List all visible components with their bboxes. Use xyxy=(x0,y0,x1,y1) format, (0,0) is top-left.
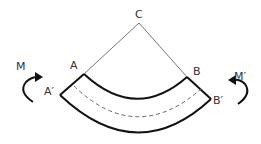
label-a: A xyxy=(70,59,78,72)
neutral-axis-dashed-arc xyxy=(74,86,201,117)
label-m-prime: M′ xyxy=(234,70,246,83)
label-b-prime: B′ xyxy=(213,94,224,107)
inner-arc xyxy=(84,74,187,99)
radial-line-right xyxy=(139,23,187,77)
label-a-prime: A′ xyxy=(44,85,55,98)
label-m: M xyxy=(16,60,26,73)
radial-line-left xyxy=(84,23,139,74)
label-b: B xyxy=(193,65,201,78)
label-c: C xyxy=(135,8,143,21)
beam-bending-diagram: C A B A′ B′ M M′ xyxy=(0,0,261,144)
arrowhead-left-icon xyxy=(35,72,43,82)
outer-arc xyxy=(60,95,211,133)
right-edge xyxy=(187,77,211,99)
